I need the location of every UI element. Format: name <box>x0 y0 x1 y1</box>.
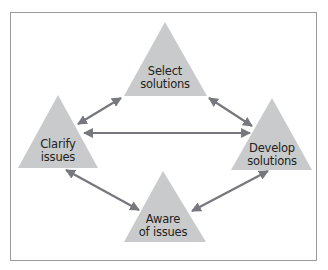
arrow-aware-develop <box>192 171 268 211</box>
label-line: issues <box>13 151 103 164</box>
label-clarify-issues: Clarify issues <box>13 138 103 164</box>
label-line: solutions <box>120 78 210 91</box>
arrow-clarify-aware <box>66 170 139 210</box>
label-line: solutions <box>227 155 317 168</box>
label-select-solutions: Select solutions <box>120 65 210 91</box>
arrow-clarify-select <box>78 98 121 124</box>
arrow-select-develop <box>209 98 252 126</box>
label-develop-solutions: Develop solutions <box>227 142 317 168</box>
label-aware-of-issues: Aware of issues <box>118 213 208 239</box>
label-line: of issues <box>118 226 208 239</box>
